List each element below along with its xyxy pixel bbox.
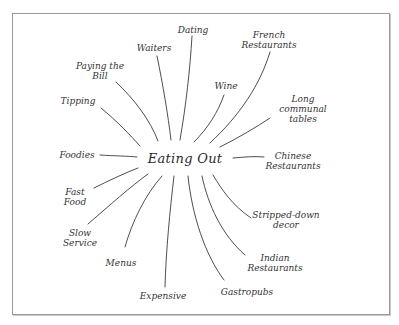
node-long-communal-tables: Long communal tables <box>279 94 326 124</box>
node-dating-line-1: Dating <box>178 25 209 35</box>
connector-wine <box>194 95 224 142</box>
node-waiters: Waiters <box>137 43 172 53</box>
node-gastropubs-line-1: Gastropubs <box>221 287 273 297</box>
node-long-communal-tables-line-1: Long <box>279 94 326 104</box>
node-dating: Dating <box>178 25 209 35</box>
connector-dating <box>180 36 192 140</box>
node-wine: Wine <box>214 81 237 91</box>
node-tipping-line-1: Tipping <box>61 96 96 106</box>
node-stripped-down-decor-line-1: Stripped-down <box>252 210 319 220</box>
node-indian-restaurants: Indian Restaurants <box>247 253 302 273</box>
node-slow-service-line-2: Service <box>63 238 97 248</box>
node-french-restaurants-line-1: French <box>241 30 296 40</box>
connector-chinese-restaurants <box>233 157 264 158</box>
connector-long-communal-tables <box>220 118 270 147</box>
node-expensive-line-1: Expensive <box>140 291 186 301</box>
connector-foodies <box>100 155 137 157</box>
node-chinese-restaurants: Chinese Restaurants <box>265 151 320 171</box>
central-node-eating-out: Eating Out <box>148 151 223 166</box>
node-long-communal-tables-line-2: communal <box>279 104 326 114</box>
node-gastropubs: Gastropubs <box>221 287 273 297</box>
node-stripped-down-decor-line-2: decor <box>252 220 319 230</box>
connector-stripped-down-decor <box>213 175 251 218</box>
connector-french-restaurants <box>210 52 270 143</box>
connector-expensive <box>165 176 174 287</box>
node-indian-restaurants-line-2: Restaurants <box>247 263 302 273</box>
node-tipping: Tipping <box>61 96 96 106</box>
node-fast-food-line-2: Food <box>64 197 86 207</box>
node-menus-line-1: Menus <box>106 258 137 268</box>
node-long-communal-tables-line-3: tables <box>279 114 326 124</box>
node-french-restaurants: French Restaurants <box>241 30 296 50</box>
node-slow-service-line-1: Slow <box>63 228 97 238</box>
connector-slow-service <box>88 174 148 224</box>
connector-indian-restaurants <box>202 176 245 255</box>
connector-paying-the-bill <box>116 82 158 141</box>
node-french-restaurants-line-2: Restaurants <box>241 40 296 50</box>
node-stripped-down-decor: Stripped-down decor <box>252 210 319 230</box>
node-chinese-restaurants-line-2: Restaurants <box>265 161 320 171</box>
node-chinese-restaurants-line-1: Chinese <box>265 151 320 161</box>
node-expensive: Expensive <box>140 291 186 301</box>
node-foodies: Foodies <box>59 150 94 160</box>
node-paying-the-bill: Paying the Bill <box>76 61 124 81</box>
node-menus: Menus <box>106 258 137 268</box>
node-waiters-line-1: Waiters <box>137 43 172 53</box>
node-indian-restaurants-line-1: Indian <box>247 253 302 263</box>
node-paying-the-bill-line-2: Bill <box>76 71 124 81</box>
node-slow-service: Slow Service <box>63 228 97 248</box>
node-wine-line-1: Wine <box>214 81 237 91</box>
connector-tipping <box>101 108 140 146</box>
node-fast-food: Fast Food <box>64 187 86 207</box>
node-paying-the-bill-line-1: Paying the <box>76 61 124 71</box>
connector-waiters <box>157 56 171 140</box>
connector-fast-food <box>94 168 138 188</box>
connector-menus <box>125 176 162 247</box>
node-foodies-line-1: Foodies <box>59 150 94 160</box>
node-fast-food-line-1: Fast <box>64 187 86 197</box>
